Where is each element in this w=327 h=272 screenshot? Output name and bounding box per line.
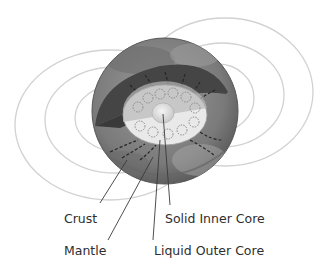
solid-inner-core <box>152 103 174 123</box>
label-liquid-outer-core: Liquid Outer Core <box>154 243 264 258</box>
earth-diagram-svg <box>0 0 327 272</box>
earth-globe <box>90 38 238 184</box>
label-solid-inner-core: Solid Inner Core <box>165 211 265 226</box>
label-mantle: Mantle <box>64 243 106 258</box>
label-crust: Crust <box>64 211 97 226</box>
leader-line-crust <box>100 160 127 203</box>
earth-diagram: Crust Mantle Solid Inner Core Liquid Out… <box>0 0 327 272</box>
